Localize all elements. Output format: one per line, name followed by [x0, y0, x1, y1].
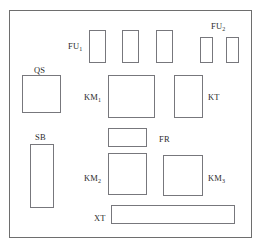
- component-fu2-fuse-1: [200, 37, 213, 63]
- label-text: SB: [35, 132, 46, 142]
- component-fu2-fuse-2: [226, 37, 239, 63]
- component-fu1-fuse-2: [122, 30, 139, 63]
- label-fu1-fuse-1: FU1: [68, 42, 82, 51]
- electrical-panel-layout-diagram: FU1FU2QSKM1KTSBFRKM2KM3XT: [0, 0, 265, 248]
- component-fr-thermal-overload-relay: [108, 128, 147, 147]
- label-text: XT: [94, 213, 106, 223]
- component-sb-pushbutton-station: [30, 144, 54, 208]
- component-km3-contactor: [163, 155, 203, 196]
- component-fu1-fuse-3: [156, 30, 173, 63]
- component-qs-disconnect-switch: [22, 75, 61, 113]
- component-xt-terminal-block: [111, 205, 235, 224]
- label-kt-timer-relay: KT: [208, 93, 220, 102]
- label-qs-disconnect-switch: QS: [34, 66, 45, 75]
- label-subscript: 3: [222, 178, 225, 184]
- label-subscript: 2: [98, 178, 101, 184]
- label-km3-contactor: KM3: [208, 174, 225, 183]
- label-text: FU: [211, 21, 222, 31]
- label-text: FU: [68, 41, 79, 51]
- label-km2-contactor: KM2: [84, 174, 101, 183]
- label-text: KT: [208, 92, 220, 102]
- label-text: KM: [84, 92, 98, 102]
- label-fr-thermal-overload-relay: FR: [159, 135, 170, 144]
- label-subscript: 1: [98, 97, 101, 103]
- label-text: KM: [84, 173, 98, 183]
- label-fu2-fuse-1: FU2: [211, 22, 225, 31]
- component-km1-contactor: [108, 75, 155, 118]
- label-km1-contactor: KM1: [84, 93, 101, 102]
- component-fu1-fuse-1: [89, 30, 106, 63]
- label-sb-pushbutton-station: SB: [35, 133, 46, 142]
- label-xt-terminal-block: XT: [94, 214, 106, 223]
- label-text: QS: [34, 65, 45, 75]
- label-text: KM: [208, 173, 222, 183]
- component-km2-contactor: [108, 153, 147, 195]
- component-kt-timer-relay: [174, 75, 203, 118]
- label-text: FR: [159, 134, 170, 144]
